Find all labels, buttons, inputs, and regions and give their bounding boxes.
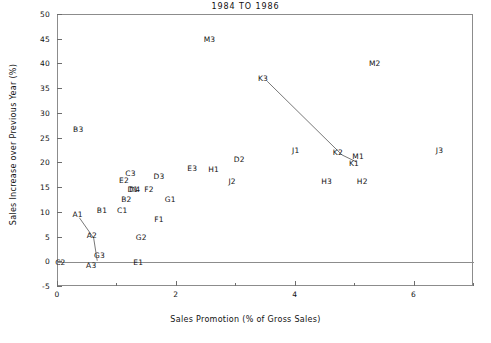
connected-series-lines (58, 15, 474, 287)
data-point-label: M3 (204, 36, 216, 44)
y-tick-label: 20 (26, 158, 50, 167)
scatter-chart-figure: 1984 TO 1986 A1A2A3B1B2B3C1C2C3D1D2D3D4E… (0, 0, 491, 343)
chart-title: 1984 TO 1986 (0, 2, 491, 11)
x-tick-label: 6 (411, 290, 416, 299)
x-tick-mark-minor (235, 283, 236, 286)
y-tick-label: 50 (26, 10, 50, 19)
y-tick-label: 40 (26, 59, 50, 68)
y-tick-label: 0 (26, 257, 50, 266)
y-tick-mark (57, 63, 62, 64)
plot-area: A1A2A3B1B2B3C1C2C3D1D2D3D4E1E2E3F1F2G1G2… (57, 14, 473, 286)
x-tick-mark (57, 281, 58, 286)
data-point-label: J1 (292, 147, 299, 155)
data-point-label: E2 (119, 177, 129, 185)
data-point-label: M2 (369, 60, 381, 68)
zero-reference-line (58, 262, 474, 263)
y-tick-mark (57, 261, 62, 262)
data-point-label: C2 (55, 259, 65, 267)
y-tick-mark (57, 162, 62, 163)
x-tick-label: 4 (292, 290, 297, 299)
data-point-label: H3 (321, 178, 332, 186)
data-point-label: E3 (187, 165, 197, 173)
x-tick-mark (414, 281, 415, 286)
data-point-label: F1 (154, 216, 164, 224)
x-tick-mark-minor (354, 283, 355, 286)
data-point-label: A2 (87, 232, 97, 240)
data-point-label: B2 (121, 196, 131, 204)
data-point-label: K2 (333, 149, 343, 157)
x-tick-label: 2 (173, 290, 178, 299)
y-tick-label: 30 (26, 108, 50, 117)
y-tick-mark (57, 113, 62, 114)
y-tick-mark (57, 212, 62, 213)
data-point-label: F2 (144, 186, 154, 194)
data-point-label: H1 (208, 166, 219, 174)
data-point-label: K3 (258, 75, 268, 83)
x-tick-mark-minor (116, 283, 117, 286)
y-tick-mark (57, 88, 62, 89)
y-tick-mark (57, 237, 62, 238)
y-tick-mark (57, 286, 62, 287)
data-point-label: C1 (117, 207, 127, 215)
data-point-label: B3 (73, 126, 83, 134)
data-point-label: J3 (436, 147, 443, 155)
y-tick-label: -5 (26, 282, 50, 291)
x-tick-label: 0 (55, 290, 60, 299)
data-point-label: E1 (133, 259, 143, 267)
x-tick-mark (176, 281, 177, 286)
y-tick-label: 45 (26, 34, 50, 43)
y-tick-label: 15 (26, 183, 50, 192)
data-point-label: D4 (129, 186, 140, 194)
y-tick-mark (57, 39, 62, 40)
y-tick-label: 35 (26, 84, 50, 93)
y-tick-label: 25 (26, 133, 50, 142)
series-polyline (267, 81, 356, 162)
y-tick-label: 10 (26, 207, 50, 216)
data-point-label: A3 (86, 262, 96, 270)
data-point-label: H2 (357, 178, 368, 186)
x-tick-mark-minor (473, 283, 474, 286)
y-tick-label: 5 (26, 232, 50, 241)
y-tick-mark (57, 14, 62, 15)
data-point-label: G2 (136, 234, 147, 242)
x-tick-mark (295, 281, 296, 286)
data-point-label: D3 (154, 173, 165, 181)
data-point-label: B1 (97, 207, 107, 215)
data-point-label: D2 (234, 156, 245, 164)
y-axis-label: Sales Increase over Previous Year (%) (9, 60, 18, 230)
data-point-label: A1 (72, 211, 82, 219)
data-point-label: M1 (352, 153, 364, 161)
data-point-label: G1 (165, 196, 176, 204)
data-point-label: G3 (94, 252, 105, 260)
y-tick-mark (57, 138, 62, 139)
y-tick-mark (57, 187, 62, 188)
x-axis-label: Sales Promotion (% of Gross Sales) (0, 315, 491, 324)
data-point-label: J2 (228, 178, 235, 186)
